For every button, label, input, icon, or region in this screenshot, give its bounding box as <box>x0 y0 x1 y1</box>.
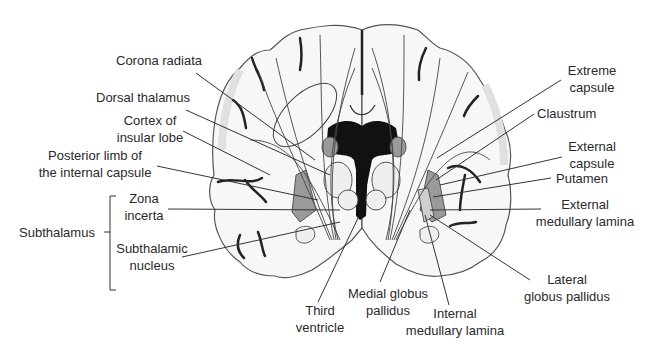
label-dorsal-thalamus: Dorsal thalamus <box>96 89 190 106</box>
label-zona-incerta-line2: incerta <box>118 207 170 224</box>
label-corona-radiata: Corona radiata <box>116 52 202 69</box>
label-external-medullary-lamina-line2: medullary lamina <box>530 213 640 230</box>
label-external-medullary-lamina-line1: External <box>530 196 640 213</box>
label-extreme-capsule-line2: capsule <box>562 79 622 96</box>
label-posterior-limb-line2: the internal capsule <box>30 164 160 181</box>
label-subthalamus: Subthalamus <box>19 224 95 241</box>
label-zona-incerta-line1: Zona <box>118 190 170 207</box>
label-internal-medullary-lamina-line1: Internal <box>400 305 510 322</box>
label-medial-globus-pallidus-line1: Medial globus <box>340 285 436 302</box>
label-lateral-globus-pallidus-line1: Lateral <box>512 271 622 288</box>
label-subthalamic-nucleus-line1: Subthalamic <box>112 240 192 257</box>
label-putamen: Putamen <box>556 170 608 187</box>
label-external-capsule-line1: External <box>562 138 622 155</box>
label-subthalamic-nucleus-line2: nucleus <box>112 257 192 274</box>
label-cortex-insular-line1: Cortex of <box>108 112 192 129</box>
label-claustrum: Claustrum <box>537 105 596 122</box>
label-posterior-limb-line1: Posterior limb of <box>30 147 160 164</box>
label-internal-medullary-lamina-line2: medullary lamina <box>400 322 510 339</box>
label-lateral-globus-pallidus-line2: globus pallidus <box>512 288 622 305</box>
label-third-ventricle-line2: ventricle <box>290 319 350 336</box>
label-cortex-insular-line2: insular lobe <box>108 129 192 146</box>
label-extreme-capsule-line1: Extreme <box>562 62 622 79</box>
